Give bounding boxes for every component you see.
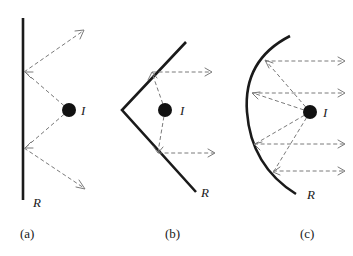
panel-a: I R (a) — [20, 18, 86, 241]
panel-b-mirror-vee — [122, 42, 196, 192]
panel-c-incident-ray-4 — [274, 112, 310, 171]
panel-b: I R (b) — [122, 42, 215, 241]
panel-b-mirror-label: R — [200, 185, 209, 200]
panel-a-incident-ray-lower — [25, 110, 69, 148]
panel-c-source-dot — [303, 105, 317, 119]
panel-a-incident-ray-upper — [25, 72, 69, 110]
panel-a-source-dot — [62, 103, 76, 117]
panel-a-reflected-ray-upper — [24, 31, 83, 72]
panel-c: I R (c) — [247, 36, 345, 241]
panel-c-incident-ray-3 — [255, 112, 310, 144]
figure-container: I R (a) I R — [0, 0, 353, 256]
panel-b-source-label: I — [179, 103, 185, 118]
panel-a-caption: (a) — [20, 226, 34, 241]
panel-a-mirror-label: R — [32, 195, 41, 210]
panel-c-caption: (c) — [300, 226, 314, 241]
panel-a-source-label: I — [80, 103, 86, 118]
panel-c-mirror-parabola — [247, 36, 296, 194]
panel-b-caption: (b) — [165, 226, 180, 241]
panel-c-source-label: I — [322, 105, 328, 120]
panel-a-reflected-ray-lower — [24, 148, 84, 188]
panel-c-incident-ray-2 — [253, 93, 310, 112]
panel-b-source-dot — [158, 103, 172, 117]
panel-a-reflected-arrow-lower — [76, 180, 85, 189]
panel-a-reflected-arrow-upper — [75, 30, 84, 39]
panel-c-mirror-label: R — [306, 187, 315, 202]
optics-diagram: I R (a) I R — [0, 0, 353, 256]
